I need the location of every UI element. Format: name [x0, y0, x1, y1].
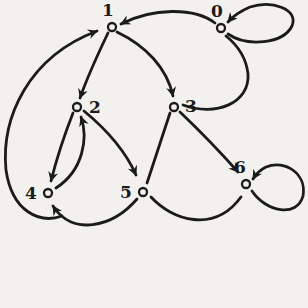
- directed-graph-figure: 0123456: [0, 0, 308, 308]
- graph-node-0: [217, 24, 225, 32]
- graph-node-label-3: 3: [185, 96, 197, 116]
- graph-node-label-5: 5: [120, 182, 132, 202]
- graph-node-3: [170, 103, 178, 111]
- graph-node-label-4: 4: [25, 183, 37, 203]
- graph-node-4: [44, 189, 52, 197]
- graph-node-1: [108, 23, 116, 31]
- graph-node-label-1: 1: [102, 0, 114, 20]
- paper-background: [0, 0, 308, 308]
- graph-node-label-0: 0: [211, 1, 223, 21]
- graph-node-label-2: 2: [89, 97, 101, 117]
- graph-node-2: [73, 103, 81, 111]
- directed-graph-canvas: 0123456: [0, 0, 308, 308]
- graph-node-5: [139, 188, 147, 196]
- graph-node-6: [242, 180, 250, 188]
- graph-node-label-6: 6: [234, 157, 246, 177]
